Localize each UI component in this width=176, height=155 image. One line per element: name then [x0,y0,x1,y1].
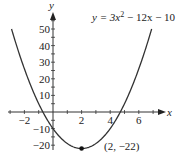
x-axis-label: x [166,106,172,118]
x-tick-label: −2 [19,114,31,126]
x-tick-label: 2 [79,114,85,126]
y-tick-label: 50 [39,23,51,35]
y-tick-label: 30 [39,56,51,68]
axes [8,12,166,150]
y-tick-label: 20 [39,73,51,85]
parabola-chart: (2, −22) y = 3x2 − 12x − 10 x y −2246 50… [0,0,176,155]
y-tick-labels: 5040302010−10−20 [33,23,51,151]
equation-label: y = 3x2 − 12x − 10 [91,10,176,23]
x-tick-label: 4 [107,114,113,126]
y-axis-label: y [48,0,54,11]
vertex-label: (2, −22) [104,140,140,153]
y-tick-label: 40 [39,40,51,52]
x-tick-label: 6 [136,114,142,126]
y-tick-label: 10 [39,89,51,101]
y-tick-label: −20 [33,139,51,151]
vertex-point [79,146,84,151]
y-tick-label: −10 [33,123,51,135]
